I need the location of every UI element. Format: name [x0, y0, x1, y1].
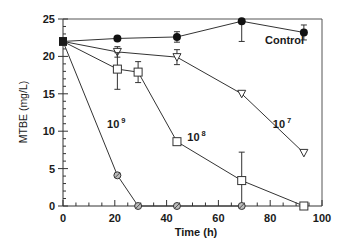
series-label: 109: [107, 116, 125, 130]
inverted-triangle-marker: [300, 149, 308, 157]
y-tick-label: 25: [43, 13, 55, 25]
series-10e7: [59, 37, 308, 156]
y-tick-label: 0: [49, 200, 55, 212]
filled-circle-marker: [113, 34, 121, 42]
series-line: [63, 41, 242, 206]
y-axis-title: MTBE (mg/L): [17, 81, 29, 143]
x-tick-label: 100: [313, 212, 331, 224]
x-tick-label: 0: [60, 212, 66, 224]
mtbe-degradation-chart: 0204060801000510152025 Time (h) MTBE (mg…: [0, 0, 349, 252]
square-marker: [134, 68, 142, 76]
y-tick-label: 10: [43, 125, 55, 137]
square-marker: [113, 65, 121, 73]
y-tick-label: 15: [43, 88, 55, 100]
series-line: [63, 41, 304, 206]
series-label: 108: [187, 129, 205, 143]
series-label: 107: [273, 116, 291, 130]
x-tick-label: 60: [212, 212, 224, 224]
square-marker: [173, 138, 181, 146]
x-axis-title: Time (h): [175, 226, 218, 238]
series-labels: Control107108109: [107, 34, 304, 142]
square-marker: [238, 177, 246, 185]
x-tick-label: 40: [160, 212, 172, 224]
y-tick-label: 5: [49, 163, 55, 175]
plot-frame: [63, 19, 322, 206]
filled-circle-marker: [238, 17, 246, 25]
start-marker: [59, 37, 67, 45]
square-marker: [300, 202, 308, 210]
filled-circle-marker: [173, 33, 181, 41]
axis-ticks: [58, 19, 322, 206]
series-10e9: [59, 37, 245, 209]
y-tick-label: 20: [43, 50, 55, 62]
series-line: [63, 41, 304, 152]
x-tick-label: 20: [109, 212, 121, 224]
x-tick-label: 80: [264, 212, 276, 224]
series-label: Control: [265, 34, 304, 46]
